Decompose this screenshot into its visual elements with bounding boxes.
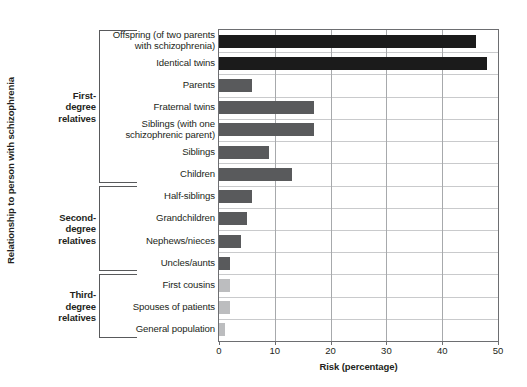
category-label-line: Uncles/aunts xyxy=(98,257,215,268)
value-gridline xyxy=(386,30,387,341)
row-gridline xyxy=(219,186,498,187)
y-axis-title: Relationship to person with schizophreni… xyxy=(0,0,20,340)
bar xyxy=(219,257,230,270)
category-label-line: Fraternal twins xyxy=(98,101,215,112)
value-gridline xyxy=(275,30,276,341)
plot-area xyxy=(218,29,499,342)
group-label-line: relatives xyxy=(58,113,96,125)
group-label: Third-degreerelatives xyxy=(58,289,96,324)
category-label: Uncles/aunts xyxy=(98,257,215,268)
x-tick-label: 40 xyxy=(437,345,448,356)
category-label-line: Siblings xyxy=(98,146,215,157)
bar xyxy=(219,35,476,48)
bar xyxy=(219,146,269,159)
category-label-line: schizophrenic parent) xyxy=(98,129,215,140)
category-label: General population xyxy=(98,323,215,334)
category-label-line: Half-siblings xyxy=(98,190,215,201)
x-tick-label: 50 xyxy=(493,345,504,356)
y-axis-title-text: Relationship to person with schizophreni… xyxy=(5,77,16,264)
x-axis-title-text: Risk (percentage) xyxy=(319,361,397,372)
category-label-column: Offspring (of two parentswith schizophre… xyxy=(100,29,217,340)
group-label-line: degree xyxy=(58,223,96,235)
row-gridline xyxy=(219,97,498,98)
category-label-line: Spouses of patients xyxy=(98,301,215,312)
value-gridline xyxy=(442,30,443,341)
row-gridline xyxy=(219,252,498,253)
group-label-line: relatives xyxy=(58,235,96,247)
bar xyxy=(219,57,487,70)
category-label: Parents xyxy=(98,79,215,90)
category-label: Spouses of patients xyxy=(98,301,215,312)
bar xyxy=(219,168,292,181)
x-tick-label: 20 xyxy=(325,345,336,356)
category-label-line: Offspring (of two parents xyxy=(98,29,215,40)
bar xyxy=(219,212,247,225)
row-gridline xyxy=(219,230,498,231)
category-label-line: Children xyxy=(98,168,215,179)
bar xyxy=(219,279,230,292)
category-label: Siblings xyxy=(98,146,215,157)
x-axis-title: Risk (percentage) xyxy=(218,361,499,372)
bar xyxy=(219,101,314,114)
category-label: Offspring (of two parentswith schizophre… xyxy=(98,29,215,51)
category-label-line: Grandchildren xyxy=(98,212,215,223)
category-label: Half-siblings xyxy=(98,190,215,201)
category-label: Siblings (with oneschizophrenic parent) xyxy=(98,118,215,140)
category-label: First cousins xyxy=(98,279,215,290)
row-gridline xyxy=(219,319,498,320)
group-label-line: degree xyxy=(58,301,96,313)
row-gridline xyxy=(219,208,498,209)
category-label-line: First cousins xyxy=(98,279,215,290)
group-label-column: First-degreerelativesSecond-degreerelati… xyxy=(26,29,96,340)
value-gridline xyxy=(331,30,332,341)
row-gridline xyxy=(219,297,498,298)
category-label-line: with schizophrenia) xyxy=(98,40,215,51)
group-label: First-degreerelatives xyxy=(58,90,96,125)
category-label: Grandchildren xyxy=(98,212,215,223)
group-label-line: First- xyxy=(58,90,96,102)
x-tick-label: 10 xyxy=(270,345,281,356)
x-tick-label: 0 xyxy=(216,345,221,356)
category-label: Children xyxy=(98,168,215,179)
category-label-line: Identical twins xyxy=(98,57,215,68)
bar xyxy=(219,123,314,136)
category-label: Fraternal twins xyxy=(98,101,215,112)
row-gridline xyxy=(219,119,498,120)
bar xyxy=(219,323,225,336)
category-label-line: Nephews/nieces xyxy=(98,235,215,246)
x-axis-ticks: 01020304050 xyxy=(218,341,499,355)
row-gridline xyxy=(219,163,498,164)
category-label-line: Siblings (with one xyxy=(98,118,215,129)
group-label: Second-degreerelatives xyxy=(58,212,96,247)
row-gridline xyxy=(219,52,498,53)
group-label-line: Third- xyxy=(58,289,96,301)
row-gridline xyxy=(219,141,498,142)
bar xyxy=(219,79,252,92)
bar xyxy=(219,190,252,203)
group-label-line: degree xyxy=(58,101,96,113)
category-label: Identical twins xyxy=(98,57,215,68)
bar xyxy=(219,301,230,314)
bar xyxy=(219,235,241,248)
category-label-line: General population xyxy=(98,323,215,334)
row-gridline xyxy=(219,274,498,275)
category-label: Nephews/nieces xyxy=(98,235,215,246)
category-label-line: Parents xyxy=(98,79,215,90)
group-label-line: Second- xyxy=(58,212,96,224)
x-tick-label: 30 xyxy=(381,345,392,356)
row-gridline xyxy=(219,74,498,75)
group-label-line: relatives xyxy=(58,312,96,324)
